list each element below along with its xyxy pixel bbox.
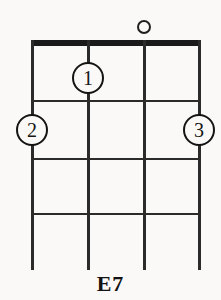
chord-diagram-page: 1 2 3 E7: [0, 0, 221, 300]
nut-bar: [31, 40, 200, 46]
string-3: [143, 40, 146, 270]
string-1: [31, 40, 34, 270]
finger-marker-2: 2: [16, 114, 48, 146]
fret-line-2: [31, 158, 201, 160]
fret-line-1: [31, 100, 201, 102]
open-string-marker-string-3: [137, 20, 151, 34]
chord-name-label: E7: [0, 271, 221, 297]
finger-marker-1: 1: [72, 62, 104, 94]
finger-marker-3: 3: [183, 114, 215, 146]
fret-line-3: [31, 213, 201, 215]
string-4: [198, 40, 201, 270]
fretboard: [0, 0, 221, 300]
